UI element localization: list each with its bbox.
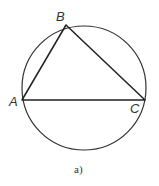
- triangle-abc: [22, 25, 145, 100]
- figure-caption: a): [74, 163, 83, 176]
- label-c: C: [130, 101, 140, 116]
- label-b: B: [56, 9, 65, 24]
- circumcircle: [22, 26, 146, 150]
- inscribed-triangle-diagram: B A C a): [0, 0, 159, 186]
- label-a: A: [8, 94, 18, 109]
